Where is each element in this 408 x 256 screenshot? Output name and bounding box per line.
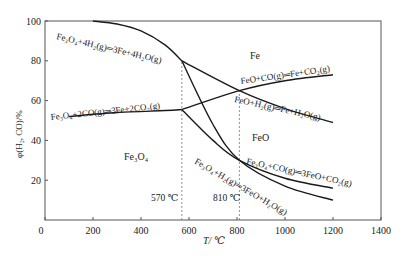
x-tick-label: 200 (86, 225, 101, 236)
region-label-fe: Fe (250, 50, 261, 61)
axis-ticks: 020040060080010001200140020406080100 (26, 16, 391, 237)
x-tick-label: 400 (134, 225, 149, 236)
x-tick-label: 600 (182, 225, 197, 236)
y-tick-label: 40 (31, 135, 41, 146)
region-label-feo: FeO (252, 132, 269, 143)
y-tick-label: 80 (31, 55, 41, 66)
plot-border (45, 21, 381, 220)
x-tick-label: 800 (230, 225, 245, 236)
y-tick-label: 60 (31, 95, 41, 106)
equation-fe3o4-co-feo: Fe₃O₄+CO(g)═3FeO+CO₂(g) (246, 156, 353, 188)
y-axis-label: φ(H₂, CO)/% (14, 110, 24, 158)
x-tick-label: 1000 (275, 225, 295, 236)
equation-fe3o4-co-fe: Fe₃O₄+2CO(g)═3Fe+2CO₂(g) (50, 101, 160, 122)
temp-label-810: 810 ℃ (213, 193, 241, 203)
x-axis-label: T/ ℃ (203, 235, 225, 246)
temp-label-570: 570 ℃ (151, 193, 179, 203)
x-tick-label: 1200 (323, 225, 343, 236)
x-tick-label: 1400 (371, 225, 391, 236)
x-tick-label: 0 (39, 225, 44, 236)
equation-fe3o4-h2-fe: Fe₃O₄+4H₂(g)═3Fe+4H₂O(g) (56, 31, 163, 65)
chart: 020040060080010001200140020406080100 T/ … (0, 0, 408, 256)
equation-feo-co-fe: FeO+CO(g)═Fe+CO₂(g) (240, 64, 331, 86)
region-label-fe3o4: Fe₃O₄ (124, 151, 149, 162)
y-tick-label: 20 (31, 175, 41, 186)
equation-feo-h2-fe: FeO+H₂(g)═Fe+H₂O(g) (234, 94, 322, 122)
plot-frame (45, 21, 381, 220)
y-tick-label: 100 (26, 16, 41, 27)
